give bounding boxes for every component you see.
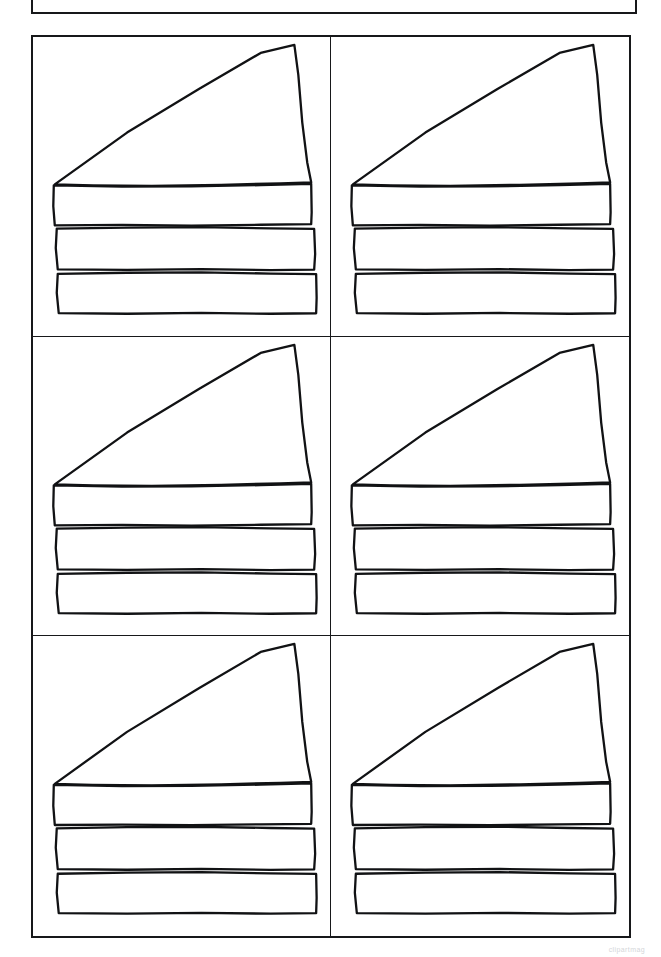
template-cell-6[interactable] bbox=[331, 636, 629, 936]
cake-layer-middle bbox=[354, 827, 614, 870]
cake-layer-bottom bbox=[57, 572, 317, 613]
cake-slice-artwork bbox=[33, 636, 330, 936]
cake-slice-icon bbox=[33, 337, 330, 636]
watermark-text: clipartmag bbox=[609, 946, 645, 953]
frosting-top-triangle bbox=[55, 345, 311, 486]
frosting-top-triangle bbox=[353, 644, 610, 785]
template-cell-2[interactable] bbox=[331, 37, 629, 337]
template-grid bbox=[31, 35, 631, 938]
template-cell-4[interactable] bbox=[331, 337, 629, 637]
header-frame bbox=[31, 0, 637, 14]
cake-layer-middle bbox=[56, 227, 315, 270]
cake-layer-middle bbox=[56, 827, 315, 870]
cake-layer-top bbox=[351, 484, 610, 526]
template-cell-1[interactable] bbox=[33, 37, 331, 337]
frosting-top-triangle bbox=[55, 45, 311, 186]
cake-slice-artwork bbox=[33, 37, 330, 336]
template-cell-3[interactable] bbox=[33, 337, 331, 637]
cake-layer-bottom bbox=[355, 872, 616, 914]
cake-slice-artwork bbox=[331, 636, 629, 936]
cake-slice-icon bbox=[331, 636, 629, 936]
cake-slice-artwork bbox=[331, 37, 629, 336]
cake-layer-bottom bbox=[57, 872, 317, 914]
cake-slice-icon bbox=[33, 636, 330, 936]
cake-layer-middle bbox=[354, 527, 614, 570]
cake-layer-bottom bbox=[355, 572, 616, 613]
cake-layer-top bbox=[351, 184, 610, 226]
cake-slice-icon bbox=[33, 37, 330, 336]
cake-slice-artwork bbox=[331, 337, 629, 636]
cake-layer-bottom bbox=[355, 272, 616, 313]
cake-layer-top bbox=[53, 484, 311, 526]
cake-layer-top bbox=[351, 784, 610, 826]
frosting-top-triangle bbox=[353, 45, 610, 186]
frosting-top-triangle bbox=[55, 644, 311, 785]
cake-slice-icon bbox=[331, 337, 629, 636]
cake-slice-artwork bbox=[33, 337, 330, 636]
template-cell-5[interactable] bbox=[33, 636, 331, 936]
cake-layer-middle bbox=[56, 527, 315, 570]
worksheet-page: clipartmag bbox=[0, 0, 661, 957]
cake-slice-icon bbox=[331, 37, 629, 336]
cake-layer-top bbox=[53, 784, 311, 826]
cake-layer-bottom bbox=[57, 272, 317, 313]
frosting-top-triangle bbox=[353, 345, 610, 486]
cake-layer-top bbox=[53, 184, 311, 226]
cake-layer-middle bbox=[354, 227, 614, 270]
